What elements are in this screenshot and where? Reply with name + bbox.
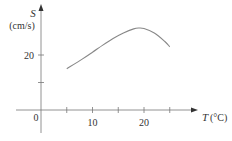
y-axis-unit: (cm/s) <box>9 20 35 32</box>
x-axis-symbol: T <box>202 111 209 123</box>
x-tick-label: 20 <box>139 117 149 128</box>
x-axis-unit: (°C) <box>210 112 227 124</box>
x-tick-label: 10 <box>88 117 98 128</box>
y-axis-symbol: S <box>30 7 36 19</box>
data-curve <box>67 28 170 69</box>
y-tick-label: 20 <box>24 50 34 61</box>
origin-label: 0 <box>34 112 39 123</box>
y-axis-arrow-icon <box>39 4 44 11</box>
x-axis-arrow-icon <box>191 108 198 113</box>
chart-svg: 1020 20 S (cm/s) 0 T (°C) <box>0 0 232 141</box>
chart: 1020 20 S (cm/s) 0 T (°C) <box>0 0 232 141</box>
